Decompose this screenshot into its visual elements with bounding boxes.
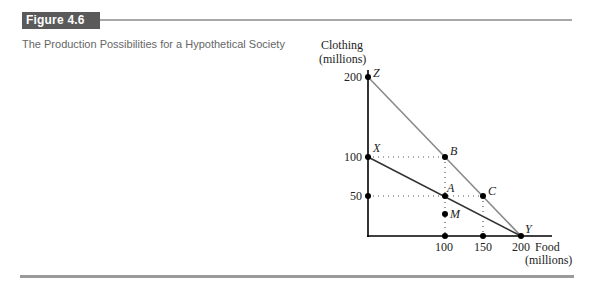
label-y: Y [525, 222, 533, 236]
y-tick-50: 50 [350, 189, 362, 203]
point-x [365, 154, 371, 160]
production-possibilities-chart: Clothing (millions) Food (millions) 200 … [0, 0, 600, 290]
point-y [518, 233, 524, 239]
y-tick-200: 200 [344, 70, 362, 84]
x-axis-title-line2: (millions) [525, 253, 572, 267]
point-x100 [442, 233, 448, 239]
label-z: Z [373, 66, 380, 80]
point-c [480, 193, 486, 199]
point-b [442, 154, 448, 160]
label-c: C [488, 184, 497, 198]
label-x: X [372, 141, 381, 155]
label-a: A [446, 181, 455, 195]
label-m: M [449, 207, 461, 221]
point-z [365, 74, 371, 80]
y-axis-title-line1: Clothing [321, 38, 363, 52]
y-tick-100: 100 [344, 150, 362, 164]
x-tick-150: 150 [474, 240, 492, 254]
y-axis-title-line2: (millions) [319, 52, 366, 66]
bottom-rule [20, 275, 574, 278]
label-b: B [450, 144, 458, 158]
x-tick-200: 200 [512, 240, 530, 254]
point-m [442, 211, 448, 217]
point-y50 [365, 193, 371, 199]
guide-lines [368, 157, 483, 236]
x-tick-100: 100 [435, 240, 453, 254]
x-axis-title-line1: Food [535, 240, 560, 254]
point-x150 [480, 233, 486, 239]
